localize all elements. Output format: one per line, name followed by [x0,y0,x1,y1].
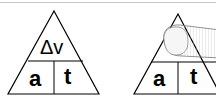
a-label: a [29,68,41,90]
a-label: a [153,68,165,90]
finger-icon [160,22,216,72]
t-label: t [64,66,71,88]
delta-v-label: Δv [40,37,63,57]
t-label: t [190,66,197,88]
